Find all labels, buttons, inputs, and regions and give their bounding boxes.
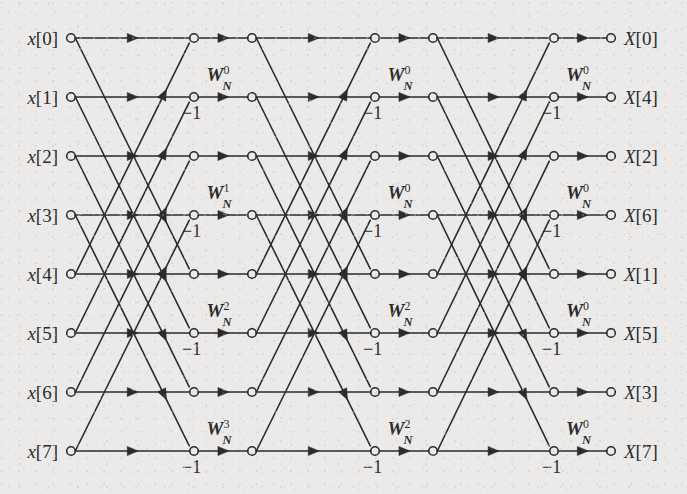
stage1-multiply-node-0[interactable] (248, 34, 257, 43)
stage2-cross-4-0-arrowhead (338, 89, 347, 101)
stage3-butterfly-node-0[interactable] (550, 34, 559, 43)
stage2-multiply-node-7[interactable] (429, 447, 438, 456)
stage1-through-1-arrowhead (127, 92, 138, 101)
stage3-multiply-1-arrowhead (577, 92, 588, 101)
output-node-7[interactable] (607, 447, 616, 456)
stage1-butterfly-node-4[interactable] (190, 270, 199, 279)
twiddle-label-stage2-row5: W2N (388, 299, 414, 329)
minus-one-label-stage1-row3: −1 (182, 221, 201, 241)
stage2-multiply-node-1[interactable] (429, 93, 438, 102)
twiddle-label-stage1-row3: W1N (207, 181, 233, 211)
stage3-cross-6-2 (437, 161, 549, 392)
stage2-multiply-node-3[interactable] (429, 211, 438, 220)
input-node-1[interactable] (67, 93, 76, 102)
output-label-[0]: X[0] (623, 28, 658, 49)
stage1-cross-6-2 (75, 161, 189, 392)
stage1-butterfly-node-5[interactable] (190, 329, 199, 338)
stage1-multiply-node-3[interactable] (248, 211, 257, 220)
stage2-multiply-node-5[interactable] (429, 329, 438, 338)
input-node-7[interactable] (67, 447, 76, 456)
stage2-through-7-arrowhead (308, 446, 319, 455)
output-node-4[interactable] (607, 270, 616, 279)
stage2-butterfly-node-6[interactable] (371, 388, 380, 397)
minus-one-label-stage3-row1: −1 (542, 103, 561, 123)
stage3-multiply-7-arrowhead (577, 446, 588, 455)
stage3-butterfly-node-4[interactable] (550, 270, 559, 279)
stage2-multiply-node-4[interactable] (429, 270, 438, 279)
stage2-cross-5-1-arrowhead (338, 148, 347, 160)
output-node-1[interactable] (607, 93, 616, 102)
stage1-butterfly-node-1[interactable] (190, 93, 199, 102)
stage2-multiply-node-0[interactable] (429, 34, 438, 43)
input-node-5[interactable] (67, 329, 76, 338)
input-label-[6]: x[6] (26, 382, 58, 403)
stage1-cross-2-6 (75, 156, 189, 387)
stage2-cross-2-6-arrowhead (338, 329, 347, 341)
stage2-through-0-arrowhead (308, 33, 319, 42)
stage3-multiply-0-arrowhead (577, 33, 588, 42)
stage2-butterfly-node-7[interactable] (371, 447, 380, 456)
stage1-butterfly-node-7[interactable] (190, 447, 199, 456)
stage1-butterfly-node-6[interactable] (190, 388, 199, 397)
stage1-through-6-arrowhead (127, 387, 138, 396)
minus-one-label-stage2-row5: −1 (363, 339, 382, 359)
stage2-butterfly-node-0[interactable] (371, 34, 380, 43)
output-node-3[interactable] (607, 211, 616, 220)
twiddle-label-stage2-row1: W0N (388, 63, 414, 93)
twiddle-label-stage1-row7: W3N (207, 417, 233, 447)
input-node-3[interactable] (67, 211, 76, 220)
stage3-butterfly-node-3[interactable] (550, 211, 559, 220)
input-node-0[interactable] (67, 34, 76, 43)
stage3-butterfly-node-2[interactable] (550, 152, 559, 161)
stage3-butterfly-node-6[interactable] (550, 388, 559, 397)
stage2-multiply-3-arrowhead (399, 210, 410, 219)
stage3-butterfly-node-7[interactable] (550, 447, 559, 456)
stage1-multiply-node-4[interactable] (248, 270, 257, 279)
stage1-multiply-node-6[interactable] (248, 388, 257, 397)
output-node-2[interactable] (607, 152, 616, 161)
input-node-4[interactable] (67, 270, 76, 279)
input-node-2[interactable] (67, 152, 76, 161)
stage1-butterfly-node-0[interactable] (190, 34, 199, 43)
stage1-multiply-node-5[interactable] (248, 329, 257, 338)
stage1-cross-3-7 (75, 215, 189, 446)
stage3-cross-6-2-arrowhead (518, 207, 527, 219)
stage2-cross-6-2 (256, 161, 370, 392)
stage1-butterfly-node-3[interactable] (190, 211, 199, 220)
input-node-6[interactable] (67, 388, 76, 397)
stage3-cross-2-6 (437, 156, 549, 387)
input-label-[0]: x[0] (26, 28, 58, 49)
twiddle-label-stage1-row1: W0N (207, 63, 233, 93)
stage2-multiply-6-arrowhead (399, 387, 410, 396)
output-node-6[interactable] (607, 388, 616, 397)
output-node-5[interactable] (607, 329, 616, 338)
twiddle-label-stage3-row5: W0N (566, 299, 592, 329)
stage2-multiply-7-arrowhead (399, 446, 410, 455)
stage2-butterfly-node-1[interactable] (371, 93, 380, 102)
stage1-multiply-node-7[interactable] (248, 447, 257, 456)
stage3-multiply-4-arrowhead (577, 269, 588, 278)
stage1-butterfly-node-2[interactable] (190, 152, 199, 161)
output-label-[2]: X[2] (623, 146, 658, 167)
stage2-multiply-node-2[interactable] (429, 152, 438, 161)
stage2-butterfly-node-5[interactable] (371, 329, 380, 338)
stage1-cross-5-1-arrowhead (157, 148, 166, 160)
stage2-butterfly-node-4[interactable] (371, 270, 380, 279)
stage2-cross-7-3 (256, 220, 370, 451)
stage2-butterfly-node-3[interactable] (371, 211, 380, 220)
stage3-cross-4-0-arrowhead (518, 89, 527, 101)
output-node-0[interactable] (607, 34, 616, 43)
fft-butterfly-diagram: x[0]x[1]x[2]x[3]x[4]x[5]x[6]x[7]X[0]X[4]… (0, 0, 687, 494)
stage3-butterfly-node-5[interactable] (550, 329, 559, 338)
stage1-multiply-node-1[interactable] (248, 93, 257, 102)
minus-one-label-stage2-row1: −1 (363, 103, 382, 123)
stage1-multiply-6-arrowhead (218, 387, 229, 396)
stage2-multiply-node-6[interactable] (429, 388, 438, 397)
input-label-[2]: x[2] (26, 146, 58, 167)
stage2-cross-7-3-arrowhead (338, 266, 347, 278)
stage3-butterfly-node-1[interactable] (550, 93, 559, 102)
output-label-[3]: X[3] (623, 382, 658, 403)
stage2-butterfly-node-2[interactable] (371, 152, 380, 161)
stage1-multiply-node-2[interactable] (248, 152, 257, 161)
minus-one-label-stage1-row5: −1 (182, 339, 201, 359)
